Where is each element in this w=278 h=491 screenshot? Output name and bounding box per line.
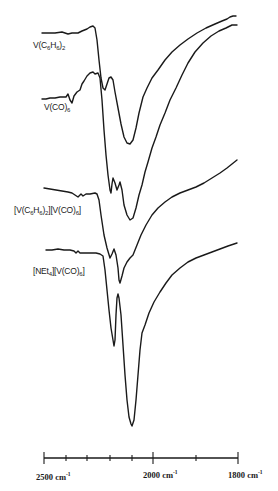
wavenumber-axis bbox=[44, 452, 238, 464]
trace-label-net4-v-co-6: [NEt4][V(CO)6] bbox=[33, 266, 85, 277]
label-text: V(C bbox=[33, 40, 47, 50]
label-text: [V(C bbox=[14, 205, 30, 215]
tick-label-1800: 1800 cm-1 bbox=[228, 469, 263, 480]
ir-spectra-chart bbox=[0, 0, 278, 491]
tick-label-2500: 2500 cm-1 bbox=[36, 471, 71, 482]
trace-v-c6h6-2 bbox=[42, 16, 236, 144]
tick-label-2000-text: 2000 cm bbox=[143, 470, 173, 480]
trace-label-v-c6h6-2: V(C6H6)2 bbox=[33, 40, 65, 51]
trace-v-c6h6-2-v-co-6 bbox=[44, 160, 237, 283]
label-subscript: 2 bbox=[62, 45, 65, 51]
label-text: ][V(CO) bbox=[48, 205, 75, 215]
label-text: V(CO) bbox=[44, 102, 67, 112]
label-text: ] bbox=[82, 266, 84, 276]
tick-label-2500-sup: -1 bbox=[66, 471, 71, 477]
tick-label-2000-sup: -1 bbox=[173, 469, 178, 475]
label-subscript: 6 bbox=[67, 107, 70, 113]
label-text: ][V(CO) bbox=[52, 266, 79, 276]
label-text: [NEt bbox=[33, 266, 49, 276]
tick-label-1800-sup: -1 bbox=[258, 469, 263, 475]
tick-label-2500-text: 2500 cm bbox=[36, 472, 66, 482]
tick-label-2000: 2000 cm-1 bbox=[143, 469, 178, 480]
label-text: ] bbox=[79, 205, 81, 215]
trace-v-co-6 bbox=[42, 25, 237, 220]
spectra-traces bbox=[42, 16, 237, 426]
tick-label-1800-text: 1800 cm bbox=[228, 470, 258, 480]
trace-label-v-c6h6-2-v-co-6: [V(C6H6)2][V(CO)6] bbox=[14, 205, 81, 216]
trace-label-v-co-6: V(CO)6 bbox=[44, 102, 70, 113]
